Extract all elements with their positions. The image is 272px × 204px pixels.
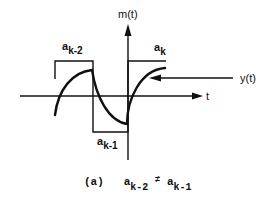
- y-signal-label: y(t): [240, 73, 256, 84]
- level-label-a-k-2: ak-2: [62, 41, 83, 52]
- caption-tag: (a): [84, 176, 104, 188]
- waveform-diagram: [0, 0, 272, 204]
- t-axis-label: t: [206, 91, 209, 102]
- level-label-a-k-1: ak-1: [97, 136, 118, 147]
- figure-caption: (a) ak-2 ≠ ak-1: [84, 176, 192, 188]
- level-label-a-k: ak: [154, 42, 166, 53]
- t-axis: [20, 93, 203, 100]
- y-pointer-arrow: [149, 75, 233, 82]
- not-equal-symbol: ≠: [155, 175, 160, 185]
- m-axis-label: m(t): [118, 9, 138, 20]
- diagram-canvas: m(t) t y(t) ak-2 ak-1 ak (a) ak-2 ≠ ak-1: [0, 0, 272, 204]
